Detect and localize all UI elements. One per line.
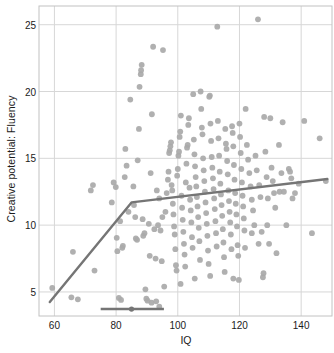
data-point — [214, 24, 220, 30]
data-point — [168, 139, 174, 145]
data-point — [246, 170, 252, 176]
data-point — [233, 201, 239, 207]
data-point — [163, 209, 169, 215]
data-point — [283, 222, 289, 228]
data-point — [134, 237, 140, 243]
data-point — [177, 134, 183, 140]
data-point — [114, 235, 120, 241]
data-point — [88, 188, 94, 194]
data-point — [173, 262, 179, 268]
data-point — [192, 276, 198, 282]
data-point — [288, 175, 294, 181]
data-point — [143, 286, 149, 292]
data-point — [267, 115, 273, 121]
data-point — [195, 214, 201, 220]
data-point — [149, 111, 155, 117]
data-point — [245, 157, 251, 163]
data-point — [174, 173, 180, 179]
data-point — [236, 277, 242, 283]
data-point — [176, 149, 182, 155]
data-point — [221, 240, 227, 246]
data-point — [211, 186, 217, 192]
data-point — [185, 122, 191, 128]
data-point — [149, 300, 155, 306]
data-point — [253, 153, 259, 159]
data-point — [184, 161, 190, 167]
data-point — [261, 270, 267, 276]
data-point — [249, 197, 255, 203]
data-point — [224, 158, 230, 164]
data-point — [243, 106, 249, 112]
data-point — [193, 174, 199, 180]
data-point — [166, 169, 172, 175]
data-point — [219, 213, 225, 219]
data-point — [230, 130, 236, 136]
data-point — [147, 253, 153, 259]
data-point — [219, 202, 225, 208]
data-point — [276, 142, 282, 148]
scatter-plot-figure: Creative potential: Fluency 510152025 60… — [0, 0, 334, 353]
data-point — [223, 141, 229, 147]
data-point — [228, 232, 234, 238]
data-point — [292, 190, 298, 196]
data-point — [127, 97, 133, 103]
data-point — [221, 254, 227, 260]
data-point — [188, 208, 194, 214]
data-point — [225, 171, 231, 177]
data-point — [258, 194, 264, 200]
data-point — [90, 182, 96, 188]
data-point — [211, 196, 217, 202]
data-point — [250, 208, 256, 214]
data-point — [178, 281, 184, 287]
data-point — [264, 222, 270, 228]
data-point — [262, 149, 268, 155]
data-point — [256, 241, 262, 247]
data-point — [271, 190, 277, 196]
data-point — [205, 233, 211, 239]
data-point — [182, 252, 188, 258]
data-point — [209, 165, 215, 171]
data-point — [175, 166, 181, 172]
data-point — [266, 241, 272, 247]
data-point — [206, 261, 212, 267]
data-point — [198, 106, 204, 112]
data-point — [254, 167, 260, 173]
data-point — [170, 201, 176, 207]
data-point — [155, 222, 161, 228]
data-point — [70, 249, 76, 255]
data-point — [172, 232, 178, 238]
data-point — [169, 182, 175, 188]
data-point — [165, 177, 171, 183]
data-point — [242, 228, 248, 234]
data-point — [237, 121, 243, 127]
data-point — [174, 268, 180, 274]
data-point — [309, 230, 315, 236]
data-point — [139, 62, 145, 68]
data-point — [232, 177, 238, 183]
data-point — [222, 269, 228, 275]
data-point — [197, 257, 203, 263]
data-point — [181, 241, 187, 247]
data-point — [224, 146, 230, 152]
data-point — [287, 169, 293, 175]
data-point — [249, 230, 255, 236]
data-point — [231, 162, 237, 168]
data-point — [244, 142, 250, 148]
data-point — [190, 91, 196, 97]
data-point — [130, 183, 136, 189]
scatter-points — [49, 16, 328, 309]
data-point — [217, 181, 223, 187]
data-point — [239, 179, 245, 185]
data-point — [169, 188, 175, 194]
data-point — [265, 196, 271, 202]
data-point — [140, 216, 146, 222]
data-point — [185, 142, 191, 148]
data-point — [118, 297, 124, 303]
data-point — [210, 175, 216, 181]
data-point — [146, 221, 152, 227]
data-point — [113, 184, 119, 190]
data-point — [171, 224, 177, 230]
data-point — [290, 196, 296, 202]
data-point — [188, 220, 194, 226]
data-point — [208, 138, 214, 144]
